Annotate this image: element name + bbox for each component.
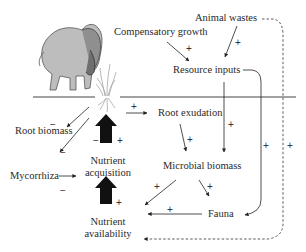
node-resource-inputs: Resource inputs: [173, 64, 240, 76]
node-root-biomass: Root biomass: [15, 125, 72, 137]
sign-plus: +: [131, 102, 137, 112]
sign-plus: +: [154, 182, 160, 192]
sign-plus: +: [287, 141, 293, 151]
sign-minus: −: [60, 148, 66, 158]
node-animal-wastes: Animal wastes: [195, 12, 257, 24]
sign-plus: +: [187, 135, 193, 145]
sign-plus: +: [235, 38, 241, 48]
sign-plus: +: [228, 120, 234, 130]
node-nutrient-acquisition: Nutrient acquisition: [82, 155, 134, 179]
grass-icon: [96, 64, 116, 112]
node-microbial-biomass: Microbial biomass: [163, 160, 241, 172]
sign-minus: −: [50, 120, 56, 130]
node-nutrient-availability: Nutrient availability: [80, 216, 136, 240]
sign-plus: +: [263, 141, 269, 151]
node-root-exudation: Root exudation: [158, 107, 222, 119]
sign-minus: −: [93, 136, 99, 146]
sign-plus: +: [117, 136, 123, 146]
node-mycorrhiza: Mycorrhiza: [10, 170, 59, 182]
sign-plus: +: [207, 182, 213, 192]
sign-minus: −: [60, 186, 66, 196]
sign-plus: +: [167, 205, 173, 215]
sign-plus: +: [116, 198, 122, 208]
node-compensatory-growth: Compensatory growth: [114, 26, 208, 38]
sign-plus: +: [186, 44, 192, 54]
node-fauna: Fauna: [208, 208, 234, 220]
bison-icon: [39, 24, 102, 90]
diagram-canvas: Compensatory growth Animal wastes Resour…: [0, 0, 306, 252]
big-arrow-availability-up: [95, 176, 117, 204]
